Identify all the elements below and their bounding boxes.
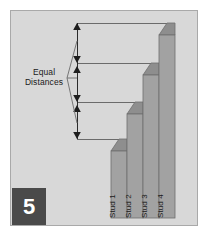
arrowhead-down-level-2 (73, 95, 81, 102)
equal-distances-label: Stud 1 Equal Distances (15, 67, 73, 87)
bar-stud-4-body (159, 35, 175, 218)
bar-stud-2-top-face (127, 102, 143, 114)
arrowhead-down-level-1 (73, 132, 81, 139)
bar-label-stud-2: Stud 2 (124, 194, 133, 218)
arrowhead-up-level-4 (73, 23, 81, 30)
figure-panel: Stud 1 Equal Distances Stud 1 Stud 2 Stu… (10, 10, 198, 226)
bar-label-stud-4: Stud 4 (156, 194, 165, 218)
equal-distances-text-line-1: Equal (15, 67, 73, 77)
figure-root: Stud 1 Equal Distances Stud 1 Stud 2 Stu… (0, 0, 209, 238)
bar-stud-3-top-face (143, 63, 159, 75)
equal-distances-text-line-2: Distances (15, 77, 73, 87)
bar-group (111, 23, 175, 218)
figure-number-text: 5 (23, 196, 35, 218)
arrowhead-up-level-3 (73, 66, 81, 73)
bar-stud-4 (159, 23, 175, 218)
bar-stud-4-top-face (159, 23, 175, 35)
arrowhead-down-level-3 (73, 56, 81, 63)
bar-label-stud-1: Stud 1 (108, 194, 117, 218)
figure-number-badge: 5 (12, 188, 46, 226)
bar-label-stud-3: Stud 3 (140, 194, 149, 218)
bar-stud-1-top-face (111, 139, 127, 151)
